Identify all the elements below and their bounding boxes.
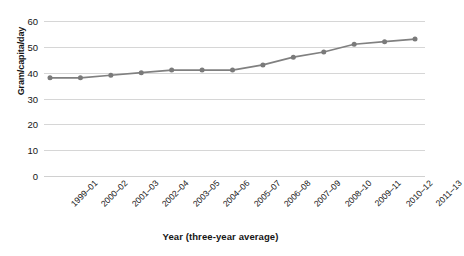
x-axis-tick-2007–09: 2007–09 — [312, 178, 343, 209]
y-axis-tick-50: 50 — [16, 41, 38, 52]
y-axis-tick-10: 10 — [16, 145, 38, 156]
x-axis-tick-2001–03: 2001–03 — [130, 178, 161, 209]
y-axis-tick-20: 20 — [16, 119, 38, 130]
x-axis-tick-2000–02: 2000–02 — [99, 178, 130, 209]
x-axis-tick-2006–08: 2006–08 — [282, 178, 313, 209]
data-point-2008–10 — [321, 50, 326, 55]
data-series-gram-capita-day — [44, 21, 425, 176]
data-point-2009–11 — [352, 42, 357, 47]
x-axis-tick-2009–11: 2009–11 — [373, 178, 403, 208]
x-axis-title: Year (three-year average) — [0, 231, 441, 242]
x-axis-tick-2010–12: 2010–12 — [403, 178, 434, 209]
y-axis-tick-30: 30 — [16, 93, 38, 104]
x-axis-tick-2004–06: 2004–06 — [221, 178, 252, 209]
y-axis-tick-40: 40 — [16, 67, 38, 78]
x-axis-tick-labels: 1999–012000–022001–032002–042003–052004–… — [44, 178, 425, 226]
x-axis-tick-2011–13: 2011–13 — [434, 178, 464, 208]
data-point-2006–08 — [260, 62, 265, 67]
data-point-2002–04 — [139, 70, 144, 75]
x-axis-tick-2008–10: 2008–10 — [343, 178, 374, 209]
data-point-2003–05 — [169, 68, 174, 73]
gridline-0 — [44, 176, 425, 177]
x-axis-tick-2002–04: 2002–04 — [160, 178, 191, 209]
data-point-2011–13 — [413, 37, 418, 42]
data-point-2004–06 — [200, 68, 205, 73]
y-axis-tick-60: 60 — [16, 16, 38, 27]
y-axis-tick-0: 0 — [16, 171, 38, 182]
data-point-1999–01 — [48, 75, 53, 80]
x-axis-tick-1999–01: 1999–01 — [69, 178, 100, 209]
data-point-2007–09 — [291, 55, 296, 60]
data-point-2001–03 — [108, 73, 113, 78]
data-point-2000–02 — [78, 75, 83, 80]
x-axis-tick-2003–05: 2003–05 — [190, 178, 221, 209]
data-point-2010–12 — [382, 39, 387, 44]
x-axis-tick-2005–07: 2005–07 — [251, 178, 282, 209]
plot-area — [44, 21, 425, 176]
data-point-2005–07 — [230, 68, 235, 73]
